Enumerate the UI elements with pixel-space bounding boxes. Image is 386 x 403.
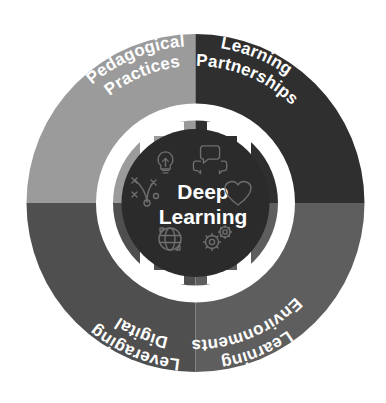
diagram-canvas: Pedagogical Practices Learning Partnersh… [0,0,386,403]
center-label-line2: Learning [159,205,248,228]
center-label-line1: Deep [177,180,228,203]
deep-learning-wheel: Pedagogical Practices Learning Partnersh… [0,0,386,403]
